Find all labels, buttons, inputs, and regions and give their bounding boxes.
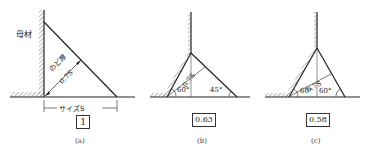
factor-box-b: 0.63 xyxy=(192,113,216,127)
angle-left-c: 60° xyxy=(300,87,312,95)
figure-b xyxy=(150,12,250,97)
size-label: サイズS xyxy=(59,103,84,113)
factor-box-a: 1 xyxy=(76,115,90,129)
angle-left-b: 60° xyxy=(177,86,189,94)
caption-c: (c) xyxy=(311,137,320,145)
angle-right-c: 60° xyxy=(319,87,331,95)
factor-box-c: 0.58 xyxy=(306,113,330,127)
weld-diagrams xyxy=(0,0,367,156)
base-metal-horizontal-hatch xyxy=(10,92,44,97)
base-metal-label: 母材 xyxy=(16,28,32,39)
angle-right-b: 45° xyxy=(210,86,222,94)
caption-b: (b) xyxy=(197,137,207,145)
caption-a: (a) xyxy=(75,137,85,145)
figure-a xyxy=(10,10,135,112)
base-metal-vertical-hatch xyxy=(39,10,44,97)
